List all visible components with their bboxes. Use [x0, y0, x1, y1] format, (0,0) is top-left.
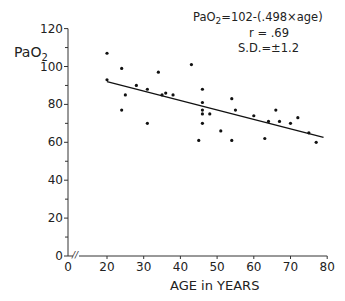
scatter-chart: //020406080100120020304050607080 PaO2 AG…	[0, 0, 345, 301]
data-point	[105, 78, 108, 81]
data-points	[105, 52, 317, 144]
data-point	[120, 67, 123, 70]
data-point	[120, 108, 123, 111]
data-point	[201, 112, 204, 115]
data-point	[208, 112, 211, 115]
data-point	[146, 88, 149, 91]
x-tick-label: 40	[173, 260, 188, 274]
data-point	[315, 141, 318, 144]
data-point	[197, 139, 200, 142]
x-tick-label: 70	[283, 260, 298, 274]
x-tick-label: 80	[320, 260, 335, 274]
data-point	[278, 120, 281, 123]
data-point	[171, 93, 174, 96]
y-tick-label: 80	[48, 97, 63, 111]
x-axis-title: AGE in YEARS	[170, 278, 259, 293]
r-annotation: r = .69	[249, 26, 289, 40]
regression-line	[107, 82, 324, 138]
data-point	[219, 129, 222, 132]
data-point	[296, 116, 299, 119]
y-tick-label: 0	[55, 249, 63, 263]
data-point	[263, 137, 266, 140]
axes: //020406080100120020304050607080	[40, 22, 335, 274]
data-point	[289, 122, 292, 125]
data-point	[190, 63, 193, 66]
x-tick-label: 20	[99, 260, 114, 274]
x-tick-label: 0	[64, 260, 72, 274]
data-point	[252, 114, 255, 117]
x-tick-label: 30	[136, 260, 151, 274]
data-point	[234, 108, 237, 111]
x-tick-label: 60	[246, 260, 261, 274]
data-point	[201, 122, 204, 125]
data-point	[135, 84, 138, 87]
y-tick-label: 120	[40, 22, 63, 36]
data-point	[201, 108, 204, 111]
y-tick-label: 40	[48, 173, 63, 187]
y-axis-title: PaO2	[14, 44, 48, 63]
data-point	[230, 97, 233, 100]
y-tick-label: 20	[48, 211, 63, 225]
data-point	[201, 88, 204, 91]
data-point	[157, 71, 160, 74]
data-point	[146, 122, 149, 125]
y-tick-label: 60	[48, 135, 63, 149]
data-point	[164, 91, 167, 94]
axis-break-icon: //	[71, 250, 79, 260]
data-point	[201, 101, 204, 104]
sd-annotation: S.D.=±1.2	[238, 41, 299, 55]
data-point	[124, 93, 127, 96]
regression-line-path	[107, 82, 324, 138]
equation-annotation: PaO2=102-(.498×age)	[193, 10, 323, 26]
data-point	[105, 52, 108, 55]
x-tick-label: 50	[209, 260, 224, 274]
data-point	[230, 139, 233, 142]
data-point	[274, 108, 277, 111]
